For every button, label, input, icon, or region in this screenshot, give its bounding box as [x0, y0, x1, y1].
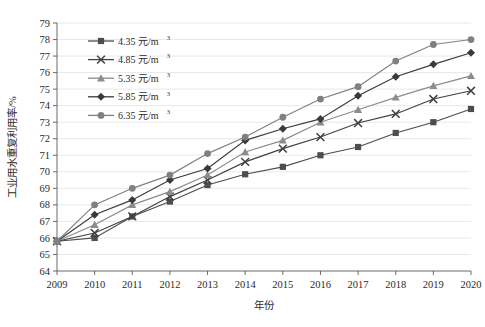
legend-item-6-35[interactable]: 6.35 元/m3 — [88, 108, 170, 121]
y-tick-label: 70 — [40, 166, 51, 177]
series-5-35 — [53, 72, 475, 245]
data-point — [430, 41, 437, 48]
y-tick-label: 76 — [40, 67, 51, 78]
x-tick-label: 2009 — [47, 279, 68, 290]
y-tick-label: 69 — [40, 183, 51, 194]
y-tick-label: 79 — [40, 18, 51, 29]
data-point — [354, 119, 362, 127]
y-tick-label: 75 — [40, 84, 51, 95]
y-tick-label: 67 — [40, 216, 51, 227]
data-point — [467, 49, 475, 57]
legend-label: 4.35 元/m — [118, 36, 159, 47]
x-axis-ticks: 2009201020112012201320142015201620172018… — [47, 271, 482, 290]
legend-label-superscript: 3 — [167, 34, 170, 41]
data-point — [392, 73, 400, 81]
x-axis-title: 年份 — [254, 299, 275, 311]
legend-label: 6.35 元/m — [118, 110, 159, 121]
data-point — [204, 150, 211, 157]
legend-item-5-35[interactable]: 5.35 元/m3 — [88, 71, 170, 84]
legend-label: 5.35 元/m — [118, 73, 159, 84]
chart-svg: 6465666768697071727374757677787920092010… — [0, 0, 485, 327]
data-point — [392, 110, 400, 118]
x-tick-label: 2012 — [159, 279, 180, 290]
legend-marker — [98, 38, 104, 44]
data-point — [467, 87, 475, 95]
legend-label: 4.85 元/m — [118, 54, 159, 65]
data-point — [279, 125, 287, 133]
y-tick-label: 78 — [40, 34, 51, 45]
x-tick-label: 2015 — [272, 279, 293, 290]
y-tick-label: 65 — [40, 249, 51, 260]
data-point — [430, 119, 436, 125]
data-point — [91, 201, 98, 208]
x-tick-label: 2019 — [423, 279, 444, 290]
legend-label-superscript: 3 — [167, 90, 170, 97]
data-point — [242, 171, 248, 177]
data-point — [241, 158, 249, 166]
line-chart: 6465666768697071727374757677787920092010… — [0, 0, 485, 327]
x-tick-label: 2010 — [84, 279, 105, 290]
data-point — [317, 96, 324, 103]
series-line — [57, 40, 471, 242]
y-tick-label: 71 — [40, 150, 51, 161]
data-point — [128, 196, 136, 204]
legend-marker — [98, 112, 105, 119]
y-tick-label: 68 — [40, 199, 51, 210]
data-point — [393, 130, 399, 136]
legend-item-4-35[interactable]: 4.35 元/m3 — [88, 34, 170, 47]
legend-label-superscript: 3 — [167, 71, 170, 78]
data-point — [392, 58, 399, 65]
data-point — [355, 144, 361, 150]
data-point — [429, 95, 437, 103]
data-point — [429, 60, 437, 68]
data-point — [91, 211, 99, 219]
x-tick-label: 2014 — [235, 279, 257, 290]
y-tick-label: 74 — [40, 100, 51, 111]
data-point — [54, 238, 61, 245]
data-point — [467, 72, 475, 79]
x-tick-label: 2018 — [385, 279, 406, 290]
legend-item-5-85[interactable]: 5.85 元/m3 — [88, 90, 170, 103]
data-point — [279, 145, 287, 153]
data-point — [166, 188, 174, 195]
x-tick-label: 2013 — [197, 279, 218, 290]
y-axis-title-text: 工业用水重复利用率/% — [6, 96, 18, 198]
legend-label-superscript: 3 — [167, 52, 170, 59]
data-point — [317, 133, 325, 141]
y-axis-title: 工业用水重复利用率/% — [6, 96, 18, 198]
legend: 4.35 元/m34.85 元/m35.35 元/m35.85 元/m36.35… — [88, 34, 170, 121]
x-tick-label: 2011 — [122, 279, 143, 290]
data-point — [354, 92, 362, 100]
legend-label: 5.85 元/m — [118, 91, 159, 102]
y-tick-label: 66 — [40, 233, 51, 244]
data-point — [355, 83, 362, 90]
data-point — [280, 164, 286, 170]
data-point — [279, 114, 286, 121]
y-tick-label: 73 — [40, 117, 51, 128]
data-point — [129, 185, 136, 192]
y-tick-label: 72 — [40, 133, 51, 144]
y-tick-label: 77 — [40, 51, 51, 62]
legend-item-4-85[interactable]: 4.85 元/m3 — [88, 52, 170, 65]
legend-marker — [97, 93, 105, 101]
data-point — [468, 36, 475, 43]
series-5-85 — [53, 49, 475, 245]
y-tick-label: 64 — [40, 266, 51, 277]
data-point — [468, 106, 474, 112]
data-point — [317, 152, 323, 158]
data-point — [242, 134, 249, 141]
data-point — [279, 136, 287, 143]
x-tick-label: 2017 — [348, 279, 369, 290]
chart-container: 6465666768697071727374757677787920092010… — [0, 0, 485, 327]
data-point — [91, 221, 99, 228]
legend-label-superscript: 3 — [167, 108, 170, 115]
data-point — [167, 172, 174, 179]
x-tick-label: 2016 — [310, 279, 331, 290]
x-tick-label: 2020 — [461, 279, 482, 290]
